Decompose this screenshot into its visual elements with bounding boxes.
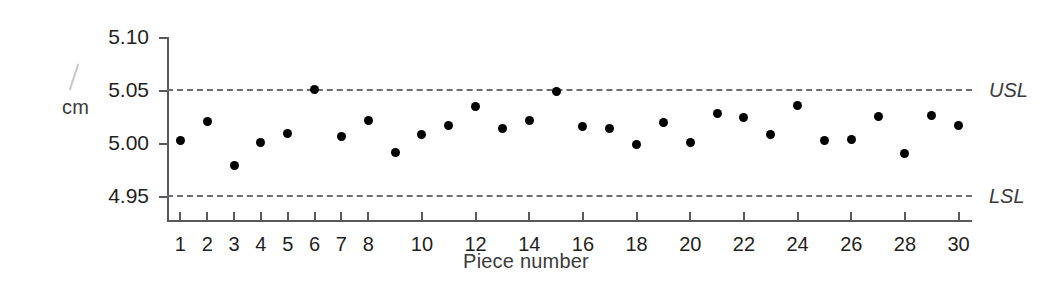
x-tick-mark [367,212,369,222]
lsl-line [167,195,972,197]
data-point [552,87,561,96]
x-tick-mark [582,212,584,222]
data-point [874,112,883,121]
x-tick-mark [206,212,208,222]
control-chart: cm 5.105.055.004.95 USLLSL 1234567810121… [0,0,1052,301]
plot-area: 5.105.055.004.95 USLLSL 1234567810121416… [167,37,972,222]
x-tick-mark [179,212,181,222]
data-point [498,124,507,133]
y-tick-mark [159,37,168,39]
data-point [766,130,775,139]
data-point [820,136,829,145]
y-tick-label: 5.00 [89,131,149,155]
data-point [310,85,319,94]
unit-leader-tick [69,63,80,90]
x-tick-mark [958,212,960,222]
x-tick-mark [743,212,745,222]
data-point [578,122,587,131]
data-point [659,118,668,127]
x-tick-mark [260,212,262,222]
x-tick-mark [233,212,235,222]
data-point [391,148,400,157]
data-point [686,138,695,147]
data-point [283,129,292,138]
usl-label: USL [989,78,1028,101]
y-tick-label: 5.05 [89,78,149,102]
data-point [203,117,212,126]
data-point [847,135,856,144]
data-point [927,111,936,120]
usl-line [167,89,972,91]
x-tick-mark [314,212,316,222]
data-point [900,149,909,158]
data-point [417,130,426,139]
data-point [739,113,748,122]
data-point [471,102,480,111]
y-tick-label: 4.95 [89,184,149,208]
data-point [176,136,185,145]
data-point [713,109,722,118]
x-tick-mark [475,212,477,222]
data-point [632,140,641,149]
x-tick-mark [421,212,423,222]
data-point [444,121,453,130]
y-tick-mark [159,143,168,145]
x-tick-mark [904,212,906,222]
data-point [364,116,373,125]
data-point [954,121,963,130]
x-tick-mark [340,212,342,222]
x-axis-title: Piece number [0,250,1052,273]
data-point [256,138,265,147]
y-tick-label: 5.10 [89,25,149,49]
data-point [525,116,534,125]
x-tick-mark [287,212,289,222]
x-tick-mark [850,212,852,222]
x-tick-mark [636,212,638,222]
y-axis-unit-label: cm [62,96,89,119]
x-tick-mark [528,212,530,222]
data-point [793,101,802,110]
lsl-label: LSL [989,184,1025,207]
data-point [230,161,239,170]
x-tick-mark [797,212,799,222]
data-point [605,124,614,133]
data-point [337,132,346,141]
x-tick-mark [689,212,691,222]
